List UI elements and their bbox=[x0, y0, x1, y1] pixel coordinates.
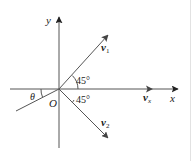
y-axis-label: y bbox=[45, 14, 51, 26]
theta-label: θ bbox=[30, 91, 35, 102]
diagram-canvas: y x O θ 45° 45° v1 v2 vx bbox=[0, 0, 194, 161]
x-axis-label: x bbox=[169, 92, 175, 104]
angle-arc-v2-full bbox=[64, 102, 72, 107]
right-border bbox=[190, 0, 191, 161]
origin-label: O bbox=[49, 97, 57, 109]
angle-arc-v2 bbox=[72, 100, 74, 102]
v1-angle-label: 45° bbox=[76, 75, 90, 86]
v2-label: v2 bbox=[101, 116, 110, 130]
v1-label: v1 bbox=[101, 41, 110, 55]
vx-label: vx bbox=[143, 91, 152, 105]
angle-arc-theta bbox=[41, 89, 43, 97]
v2-angle-label: 45° bbox=[76, 94, 90, 105]
